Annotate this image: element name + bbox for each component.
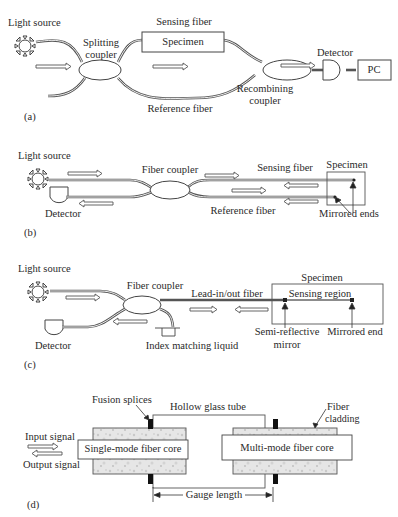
label-light-source-b: Light source [18,151,71,162]
label-semi-reflective-1: Semi-reflective [255,327,320,338]
light-source-icon [15,36,35,56]
label-sensing-fiber-b: Sensing fiber [257,163,313,174]
label-splitting-coupler-1: Splitting [83,38,119,49]
label-mirrored-ends: Mirrored ends [319,209,379,220]
label-detector-a: Detector [317,48,353,59]
fusion-splice [273,474,278,484]
fiber-coupler [123,296,161,314]
label-specimen-a: Specimen [162,37,203,48]
label-mirrored-end: Mirrored end [327,327,383,338]
panel-tag-a: (a) [24,112,36,123]
detector-icon [50,187,68,203]
label-specimen-c: Specimen [301,273,342,284]
label-fusion-splices: Fusion splices [92,395,152,406]
label-pc: PC [368,65,381,76]
label-detector-b: Detector [45,209,81,220]
label-multi-mode-core: Multi-mode fiber core [240,443,333,454]
label-reference-fiber-b: Reference fiber [211,206,276,217]
label-gauge-length: Gauge length [186,490,242,501]
fiber-coupler [150,181,190,199]
label-detector-c: Detector [35,341,71,352]
light-source-icon [28,282,48,302]
label-light-source-a: Light source [8,18,61,29]
label-reference-fiber-a: Reference fiber [148,104,213,115]
label-light-source-c: Light source [18,264,71,275]
label-fiber-cladding-1: Fiber [327,402,349,413]
label-semi-reflective-2: mirror [274,340,301,351]
detector-icon [45,320,63,335]
label-output-signal: Output signal [23,460,80,471]
splitting-coupler [79,60,121,80]
label-lead-fiber: Lead-in/out fiber [191,289,262,300]
light-source-icon [28,169,48,189]
fusion-splice [148,419,153,429]
panel-tag-c: (c) [24,360,36,371]
label-fiber-cladding-2: cladding [325,414,359,424]
detector-icon [323,60,340,80]
label-specimen-b: Specimen [326,160,367,171]
index-matching-container [155,328,180,336]
label-input-signal: Input signal [25,432,75,443]
fusion-splice [273,419,278,429]
panel-tag-d: (d) [27,500,39,511]
label-sensing-fiber-a: Sensing fiber [156,17,212,28]
label-fiber-coupler-b: Fiber coupler [142,165,198,176]
label-recombining-coupler-2: coupler [249,96,281,107]
label-recombining-coupler-1: Recombining [237,84,294,95]
panel-b [28,169,365,213]
recombining-coupler [263,60,311,80]
panel-d [28,405,352,502]
fusion-splice [148,474,153,484]
label-fiber-coupler-c: Fiber coupler [127,281,183,292]
label-splitting-coupler-2: coupler [85,50,117,61]
specimen-box [327,172,365,205]
label-single-mode-core: Single-mode fiber core [85,444,182,455]
label-index-matching: Index matching liquid [146,341,239,352]
panel-tag-b: (b) [24,228,36,239]
label-sensing-region: Sensing region [289,289,352,300]
label-hollow-tube: Hollow glass tube [170,402,246,413]
